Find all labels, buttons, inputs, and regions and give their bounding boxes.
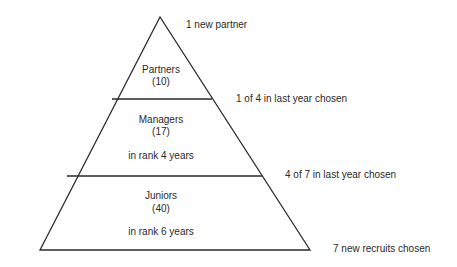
annotation-new-partner: 1 new partner xyxy=(186,19,247,31)
juniors-title: Juniors xyxy=(145,190,177,202)
annotation-new-recruits: 7 new recruits chosen xyxy=(333,243,430,255)
juniors-note: in rank 6 years xyxy=(128,226,194,238)
managers-title: Managers xyxy=(139,114,183,126)
partners-title: Partners xyxy=(142,64,180,76)
pyramid-outline xyxy=(40,17,310,250)
annotation-manager-selection: 4 of 7 in last year chosen xyxy=(285,169,396,181)
managers-count: (17) xyxy=(152,126,170,138)
partners-count: (10) xyxy=(152,76,170,88)
pyramid-diagram xyxy=(0,0,457,267)
juniors-count: (40) xyxy=(152,203,170,215)
managers-note: in rank 4 years xyxy=(128,150,194,162)
annotation-partner-selection: 1 of 4 in last year chosen xyxy=(236,93,347,105)
